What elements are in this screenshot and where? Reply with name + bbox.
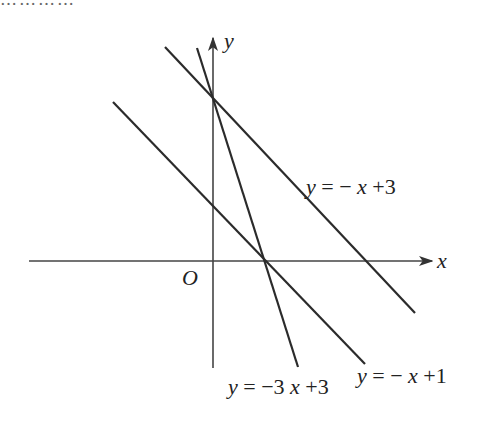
label-line-a: y = − x +3: [304, 174, 396, 199]
label-line-a-y: y: [304, 174, 316, 199]
label-line-b-tail: +3: [305, 374, 328, 399]
label-line-b: y = −3 x +3: [226, 374, 329, 399]
label-line-b-eq: = −3: [243, 374, 284, 399]
label-line-a-x: x: [356, 174, 367, 199]
line-y-eq-neg-3x-plus-3: [197, 48, 298, 367]
label-line-b-x: x: [289, 374, 300, 399]
line-y-eq-neg-x-plus-1: [113, 102, 365, 364]
coordinate-diagram: x y O y = − x +3 y = −3 x +3 y = − x +1: [0, 0, 485, 426]
label-line-a-tail: +3: [372, 174, 395, 199]
origin-label: O: [182, 265, 198, 290]
label-line-b-y: y: [226, 374, 238, 399]
x-axis-label: x: [436, 248, 447, 273]
label-line-c-tail: +1: [423, 363, 446, 388]
label-line-a-eq: = −: [321, 174, 351, 199]
label-line-c-x: x: [407, 363, 418, 388]
label-line-c-y: y: [355, 363, 367, 388]
label-line-c-eq: = −: [372, 363, 402, 388]
label-line-c: y = − x +1: [355, 363, 447, 388]
y-axis-label: y: [222, 28, 234, 53]
